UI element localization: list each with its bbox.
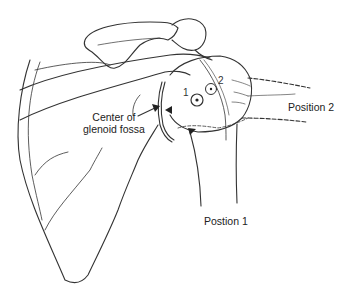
triangle-marker-icon <box>165 106 172 114</box>
shoulder-line-drawing <box>0 0 338 289</box>
glenoid-center-label-line1: Center of <box>83 111 145 123</box>
scapula-body <box>18 60 158 283</box>
glenoid-center-label-line2: glenoid fossa <box>83 123 145 135</box>
position-2-label: Position 2 <box>288 101 334 113</box>
glenoid-center-label: Center of glenoid fossa <box>83 111 145 135</box>
humeral-head <box>170 56 252 140</box>
circled-dot-icon <box>191 94 203 106</box>
humerus-position-2 <box>242 78 310 122</box>
marker-2-label: 2 <box>218 75 224 86</box>
shoulder-diagram: 1 2 Center of glenoid fossa Position 2 P… <box>0 0 338 289</box>
circled-dot-icon <box>206 84 217 95</box>
marker-1-label: 1 <box>183 87 189 98</box>
position-1-label: Postion 1 <box>204 215 248 227</box>
acromion-clavicle <box>84 19 212 68</box>
